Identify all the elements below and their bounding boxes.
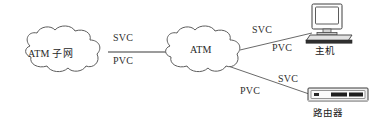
node-label-router: 路由器 — [313, 105, 344, 119]
link-label-pvc-atm-host: PVC — [272, 42, 292, 53]
node-label-host: 主机 — [315, 43, 335, 57]
atm-network-diagram: ATM 子网 ATM SVC PVC SVC PVC SVC PVC 主机 路由… — [0, 0, 386, 125]
cloud-label-atm-subnet: ATM 子网 — [28, 45, 73, 60]
link-label-svc-atm-host: SVC — [252, 24, 272, 35]
cloud-label-atm: ATM — [190, 44, 212, 55]
router-device-icon — [308, 88, 368, 102]
link-label-svc-atm-router: SVC — [278, 73, 298, 84]
link-label-svc-subnet-atm: SVC — [113, 32, 133, 43]
link-label-pvc-atm-router: PVC — [240, 85, 260, 96]
desktop-computer-icon — [306, 4, 352, 43]
link-label-pvc-subnet-atm: PVC — [113, 55, 133, 66]
